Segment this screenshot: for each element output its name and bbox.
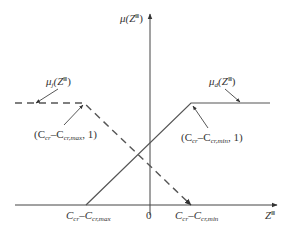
x-label-sup: Ⅲ [271,210,275,216]
membership-diagram: μ(ZⅢ) μj(ZⅢ) μd(ZⅢ) (Ccr–Ccr,max, 1) (Cc… [0,0,289,234]
cmax-point-label: (Ccr–Ccr,max, 1) [34,129,97,142]
mu-d-pointer [225,89,240,102]
y-label-base: μ(Z [120,12,135,24]
t0-b: C [85,209,92,221]
y-label-close: ) [139,12,143,24]
x-axis-label: ZⅢ [265,210,275,221]
cmin-point-pointer [193,106,208,128]
diagram-canvas [0,0,289,234]
mu-d-curve [86,103,270,205]
mu-d-arg: (Z [218,75,228,87]
mu-j-curve [15,103,191,205]
p0-open: (C [34,128,45,140]
mu-j-pointer [36,89,58,103]
x-tick-cmin: Ccr–Ccr,min [175,210,218,223]
x-origin-label: 0 [146,210,152,221]
p0-dash: –C [51,128,64,140]
x-tick-cmax: Ccr–Ccr,max [66,210,111,223]
mu-d-close: ) [232,75,236,87]
p1-open: (C [181,131,192,143]
mu-j-label: μj(ZⅢ) [46,76,71,89]
y-axis-label: μ(ZⅢ) [120,13,143,24]
mu-d-label: μd(ZⅢ) [209,76,235,89]
cmax-point-pointer [64,105,83,125]
t1-b: C [194,209,201,221]
mu-j-close: ) [67,75,71,87]
p0-sub-b: cr,max [64,134,82,142]
p1-sub-b: cr,min [211,137,228,145]
mu-j-arg: (Z [53,75,63,87]
p1-close: , 1) [228,131,243,143]
p1-dash: –C [198,131,211,143]
t1-sub-b: cr,min [201,215,218,223]
t0-sub-b: cr,max [92,215,110,223]
cmin-point-label: (Ccr–Ccr,min, 1) [181,132,243,145]
p0-close: , 1) [82,128,97,140]
